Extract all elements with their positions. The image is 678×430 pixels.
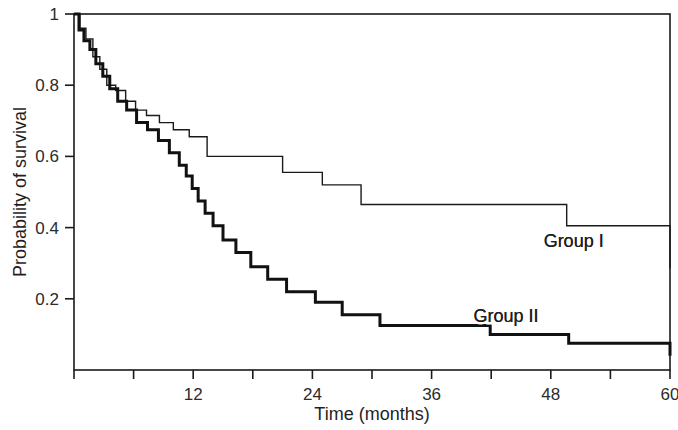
y-tick-label-1: 1	[50, 5, 59, 24]
y-axis-tick-labels: 0.20.40.60.81	[35, 5, 59, 309]
x-tick-label-48: 48	[541, 385, 560, 404]
series-label-group-i: Group I	[544, 231, 604, 251]
kaplan-meier-plot: 1224364860 0.20.40.60.81 Group IGroup IG…	[0, 0, 678, 430]
series-group	[74, 14, 670, 356]
series-line-group-ii	[74, 14, 670, 356]
plot-frame	[74, 14, 670, 370]
x-tick-label-36: 36	[422, 385, 441, 404]
x-axis-title: Time (months)	[314, 404, 429, 424]
y-tick-label-0.8: 0.8	[35, 76, 59, 95]
x-tick-label-60: 60	[661, 385, 678, 404]
x-tick-label-24: 24	[303, 385, 322, 404]
y-tick-label-0.4: 0.4	[35, 219, 59, 238]
survival-chart-figure: 1224364860 0.20.40.60.81 Group IGroup IG…	[0, 0, 678, 430]
series-label-group-ii: Group II	[474, 306, 539, 326]
x-tick-label-12: 12	[184, 385, 203, 404]
y-tick-label-0.2: 0.2	[35, 290, 59, 309]
y-axis-title: Probability of survival	[10, 107, 30, 277]
plot-border	[74, 14, 670, 370]
series-inline-labels: Group IGroup IGroup IIGroup II	[474, 231, 604, 326]
x-axis-ticks	[74, 370, 670, 379]
y-tick-label-0.6: 0.6	[35, 147, 59, 166]
y-axis-ticks	[65, 14, 74, 299]
x-axis-tick-labels: 1224364860	[184, 385, 678, 404]
